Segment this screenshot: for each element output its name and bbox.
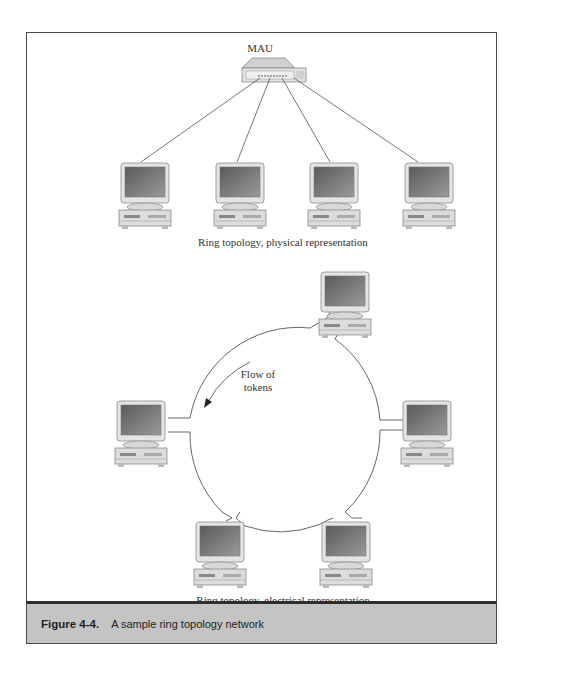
computer-icon xyxy=(403,163,455,229)
figure-title: A sample ring topology network xyxy=(111,618,264,630)
flow-label-line1: Flow of xyxy=(241,368,276,380)
computer-icon xyxy=(319,272,371,338)
ring-topology-diagram: MAU Ring topology, physical representati… xyxy=(0,0,572,686)
token-ring xyxy=(168,312,405,532)
mau-hub-icon xyxy=(242,58,306,82)
computer-icon xyxy=(401,401,453,467)
computer-icon xyxy=(308,163,360,229)
computer-icon xyxy=(194,522,246,588)
figure-caption-bar: Figure 4-4. A sample ring topology netwo… xyxy=(26,601,497,644)
computer-icon xyxy=(320,522,372,588)
mau-label: MAU xyxy=(247,42,273,54)
computer-icon xyxy=(119,163,171,229)
figure-number: Figure 4-4. xyxy=(41,618,99,630)
physical-cables xyxy=(141,78,418,162)
flow-label-line2: tokens xyxy=(244,381,273,393)
computer-icon xyxy=(115,401,167,467)
computer-icon xyxy=(214,163,266,229)
physical-caption: Ring topology, physical representation xyxy=(198,236,368,248)
